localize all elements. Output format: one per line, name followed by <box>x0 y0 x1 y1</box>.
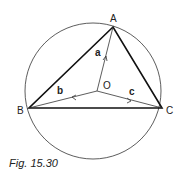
arrow-c-icon <box>127 98 131 103</box>
vector-b-label: b <box>57 86 63 96</box>
diagram-canvas <box>0 0 185 179</box>
point-b-label: B <box>17 106 24 116</box>
point-c-label: C <box>166 106 173 116</box>
circumcircle <box>25 23 161 159</box>
arrow-b-icon <box>72 95 76 100</box>
vector-c-label: c <box>129 87 135 97</box>
point-o-label: O <box>103 81 111 91</box>
vector-a-label: a <box>95 48 101 58</box>
figure-caption: Fig. 15.30 <box>9 157 58 169</box>
point-a-label: A <box>110 14 117 24</box>
